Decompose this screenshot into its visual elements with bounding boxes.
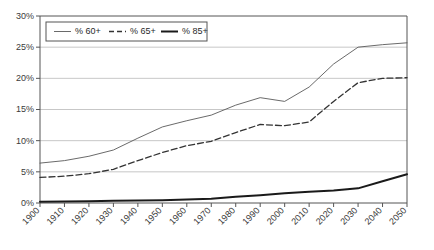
chart-container: 0%5%10%15%20%25%30%190019101920193019401… (0, 0, 434, 250)
x-tick-label-2000: 2000 (265, 205, 286, 226)
x-tick-label-2050: 2050 (387, 205, 408, 226)
x-tick-label-1920: 1920 (69, 205, 90, 226)
y-tick-label-30%: 30% (16, 11, 34, 21)
x-tick-label-1910: 1910 (45, 205, 66, 226)
x-tick-label-2010: 2010 (289, 205, 310, 226)
x-tick-label-1950: 1950 (143, 205, 164, 226)
x-tick-label-1900: 1900 (20, 205, 41, 226)
x-tick-label-2020: 2020 (314, 205, 335, 226)
x-tick-label-2030: 2030 (338, 205, 359, 226)
legend-label-65: % 65+ (130, 26, 156, 36)
x-tick-label-1930: 1930 (94, 205, 115, 226)
line-chart: 0%5%10%15%20%25%30%190019101920193019401… (0, 0, 434, 250)
x-tick-label-1940: 1940 (118, 205, 139, 226)
y-tick-label-20%: 20% (16, 73, 34, 83)
y-tick-label-10%: 10% (16, 136, 34, 146)
x-tick-label-1980: 1980 (216, 205, 237, 226)
x-tick-label-1960: 1960 (167, 205, 188, 226)
x-tick-label-1970: 1970 (191, 205, 212, 226)
y-tick-label-25%: 25% (16, 42, 34, 52)
legend-label-60: % 60+ (75, 26, 101, 36)
y-tick-label-5%: 5% (21, 167, 34, 177)
x-tick-label-2040: 2040 (363, 205, 384, 226)
legend-label-85: % 85+ (182, 26, 208, 36)
y-tick-label-15%: 15% (16, 104, 34, 114)
x-tick-label-1990: 1990 (240, 205, 261, 226)
